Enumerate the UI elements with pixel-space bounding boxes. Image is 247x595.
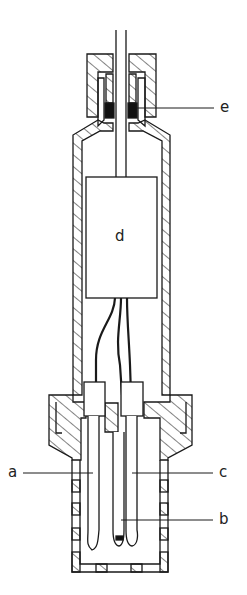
probe-diagram bbox=[0, 0, 247, 595]
electrode-c bbox=[126, 416, 137, 546]
wires bbox=[96, 298, 131, 395]
label-b: b bbox=[219, 512, 229, 527]
label-e: e bbox=[220, 100, 229, 115]
label-d: d bbox=[115, 229, 125, 244]
electrode-b bbox=[113, 432, 124, 546]
top-cap bbox=[87, 54, 156, 126]
electrode-a bbox=[88, 416, 99, 550]
central-rod bbox=[116, 30, 126, 177]
label-a: a bbox=[8, 465, 17, 480]
label-c: c bbox=[219, 465, 227, 480]
seal-e bbox=[105, 103, 137, 118]
